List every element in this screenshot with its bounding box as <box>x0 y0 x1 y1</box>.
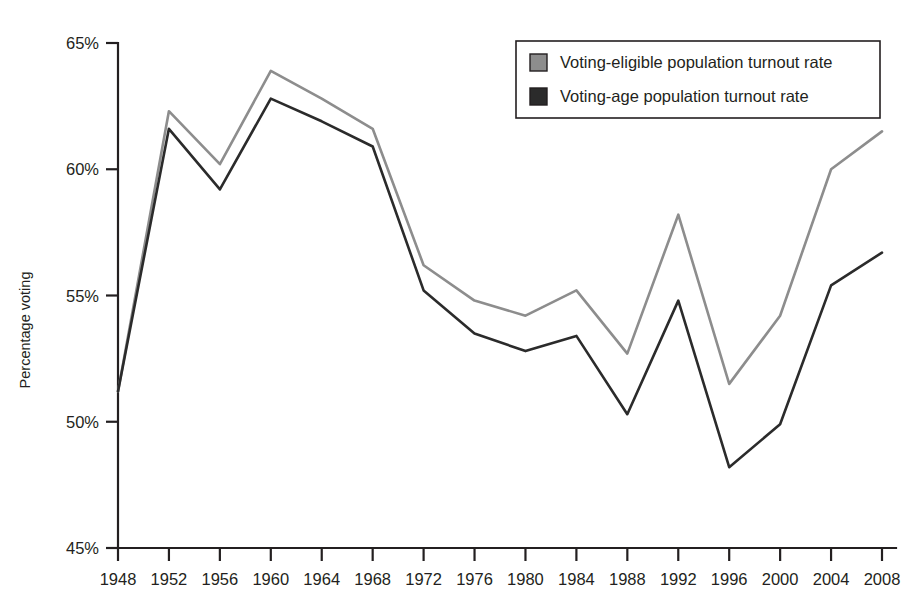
x-tick-label: 2000 <box>762 570 799 588</box>
chart-container: Percentage voting 65%60%55%50%45% 194819… <box>0 0 922 614</box>
x-tick-label: 1952 <box>151 570 188 588</box>
legend-label-voting-eligible: Voting-eligible population turnout rate <box>560 53 832 71</box>
x-tick-label: 1996 <box>711 570 748 588</box>
series-line-voting-age <box>118 99 882 468</box>
turnout-line-chart: Percentage voting 65%60%55%50%45% 194819… <box>0 0 922 614</box>
x-tick-label: 1968 <box>354 570 391 588</box>
x-tick-label: 1960 <box>252 570 289 588</box>
x-tick-label: 2004 <box>813 570 850 588</box>
legend-swatch-voting-eligible <box>530 54 547 71</box>
y-axis-tick-marks <box>106 43 118 548</box>
y-tick-label: 55% <box>66 287 99 305</box>
x-axis-tick-marks <box>118 548 882 561</box>
x-tick-label: 2008 <box>864 570 901 588</box>
legend-label-voting-age: Voting-age population turnout rate <box>560 87 809 105</box>
y-tick-label: 45% <box>66 539 99 557</box>
x-tick-label: 1976 <box>456 570 493 588</box>
x-tick-label: 1988 <box>609 570 646 588</box>
x-axis-tick-labels: 1948195219561960196419681972197619801984… <box>100 570 901 588</box>
y-tick-label: 60% <box>66 160 99 178</box>
x-tick-label: 1956 <box>202 570 239 588</box>
x-tick-label: 1980 <box>507 570 544 588</box>
x-tick-label: 1972 <box>405 570 442 588</box>
x-tick-label: 1984 <box>558 570 595 588</box>
y-axis-tick-labels: 65%60%55%50%45% <box>66 34 99 557</box>
x-tick-label: 1964 <box>303 570 340 588</box>
series-lines-group <box>118 71 882 467</box>
x-tick-label: 1992 <box>660 570 697 588</box>
legend-swatch-voting-age <box>530 88 547 105</box>
y-tick-label: 65% <box>66 34 99 52</box>
chart-legend: Voting-eligible population turnout rate … <box>516 41 880 118</box>
y-tick-label: 50% <box>66 413 99 431</box>
x-tick-label: 1948 <box>100 570 137 588</box>
y-axis-label: Percentage voting <box>17 272 33 389</box>
